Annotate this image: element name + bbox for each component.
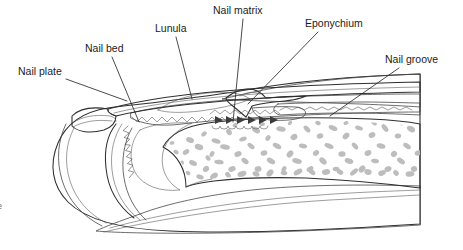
fingertip-distal-detail xyxy=(59,124,146,226)
subungual-tissue xyxy=(131,123,192,191)
label-lunula: Lunula xyxy=(155,22,187,34)
cropped-margin-text: e xyxy=(0,201,2,211)
label-nail-groove: Nail groove xyxy=(385,53,438,65)
label-nail-plate: Nail plate xyxy=(18,65,62,77)
nail-anatomy-diagram: Nail plate Nail bed Lunula Nail matrix E… xyxy=(0,0,463,250)
finger-pulp xyxy=(96,185,420,233)
tip-bed-boundary xyxy=(123,128,146,220)
bone-trabeculae xyxy=(169,120,422,181)
leader-eponychium xyxy=(248,32,318,104)
leader-nail-groove xyxy=(330,68,399,116)
distal-phalanx-bone xyxy=(163,118,422,188)
pulp-contour-1 xyxy=(110,190,420,228)
hyponychium-curve-inner xyxy=(111,124,140,220)
matrix-scallop-row xyxy=(212,126,268,129)
tip-tissue-mass xyxy=(131,123,192,191)
free-edge-line-2 xyxy=(73,120,112,127)
leader-nail-plate xyxy=(66,79,127,101)
label-texts: Nail plate Nail bed Lunula Nail matrix E… xyxy=(18,4,438,77)
label-nail-matrix: Nail matrix xyxy=(213,4,263,16)
matrix-wave-boundary xyxy=(210,110,280,114)
nail-anatomy-figure: Nail plate Nail bed Lunula Nail matrix E… xyxy=(0,0,463,250)
skin-fold-line-2 xyxy=(67,128,106,223)
leader-lunula xyxy=(176,37,192,99)
label-nail-bed: Nail bed xyxy=(85,42,124,54)
skin-fold-line-1 xyxy=(59,124,102,226)
label-eponychium: Eponychium xyxy=(305,17,363,29)
leader-nail-matrix xyxy=(233,19,243,122)
